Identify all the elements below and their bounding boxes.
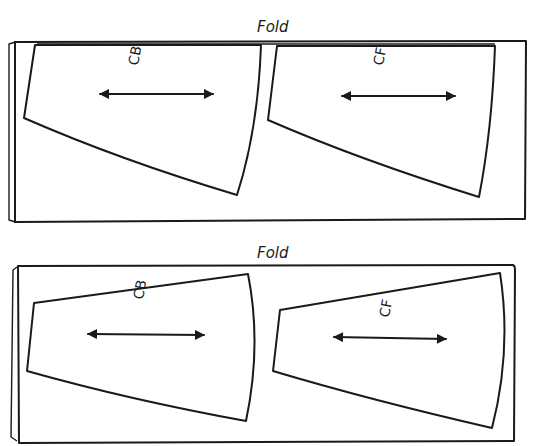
pattern-piece-cb-top: CB <box>24 45 261 195</box>
pattern-piece-cf-top: CF <box>268 46 495 197</box>
piece-label-cf: CF <box>376 298 395 318</box>
bottom-layout: Fold CB CF <box>11 244 515 443</box>
fold-label-top: Fold <box>257 18 289 36</box>
piece-label-cb: CB <box>130 279 149 301</box>
grainline-arrow-icon <box>334 337 446 339</box>
piece-label-cb: CB <box>125 45 144 67</box>
fabric-top <box>9 41 526 222</box>
pattern-piece-cb-bottom: CB <box>27 274 255 421</box>
top-layout: Fold CB CF <box>9 18 526 222</box>
fold-label-bottom: Fold <box>257 244 289 262</box>
pattern-piece-cf-bottom: CF <box>273 273 505 428</box>
grainline-arrow-icon <box>88 334 204 335</box>
pattern-layout-diagram: Fold CB CF Fold CB <box>0 0 537 446</box>
piece-label-cf: CF <box>370 46 389 66</box>
